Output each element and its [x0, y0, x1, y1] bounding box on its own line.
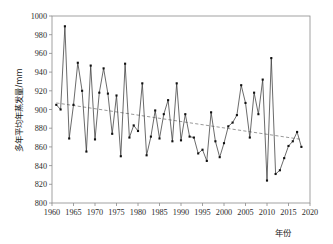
x-tick-label: 1960: [44, 208, 60, 217]
data-point-marker: [141, 82, 143, 84]
data-point-marker: [244, 102, 246, 104]
evaporation-series-markers: [55, 25, 302, 181]
x-tick-label: 1995: [194, 208, 210, 217]
data-point-marker: [189, 136, 191, 138]
evaporation-series-line: [56, 26, 301, 180]
data-point-marker: [111, 133, 113, 135]
data-point-marker: [64, 25, 66, 27]
x-axis-tick-marks: [52, 203, 310, 206]
data-point-marker: [296, 131, 298, 133]
data-point-marker: [253, 92, 255, 94]
data-point-marker: [214, 140, 216, 142]
y-tick-label: 820: [35, 180, 47, 189]
evaporation-trend-chart: 8008208408608809009209409609801000 19601…: [0, 0, 333, 244]
data-point-marker: [146, 154, 148, 156]
data-point-marker: [60, 108, 62, 110]
data-point-marker: [150, 136, 152, 138]
x-tick-label: 1985: [151, 208, 167, 217]
y-axis-tick-labels: 8008208408608809009209409609801000: [31, 12, 47, 208]
y-axis-tick-marks: [49, 16, 52, 203]
data-point-marker: [90, 65, 92, 67]
x-axis-title: 年份: [275, 228, 292, 238]
data-point-marker: [262, 79, 264, 81]
data-point-marker: [81, 90, 83, 92]
data-point-marker: [77, 62, 79, 64]
data-point-marker: [171, 140, 173, 142]
x-tick-label: 2010: [259, 208, 275, 217]
data-point-marker: [98, 92, 100, 94]
chart-canvas: 8008208408608809009209409609801000 19601…: [0, 0, 333, 244]
data-point-marker: [103, 67, 105, 69]
data-point-marker: [219, 156, 221, 158]
data-point-marker: [240, 84, 242, 86]
plot-frame: [52, 16, 310, 203]
data-point-marker: [257, 113, 259, 115]
y-tick-label: 860: [35, 143, 47, 152]
x-tick-label: 1975: [108, 208, 124, 217]
data-point-marker: [158, 137, 160, 139]
data-point-marker: [210, 111, 212, 113]
x-tick-label: 2005: [237, 208, 253, 217]
x-tick-label: 2020: [302, 208, 318, 217]
y-tick-label: 800: [35, 199, 47, 208]
data-point-marker: [266, 180, 268, 182]
data-point-marker: [128, 137, 130, 139]
data-point-marker: [249, 137, 251, 139]
x-tick-label: 1970: [87, 208, 103, 217]
data-point-marker: [137, 130, 139, 132]
y-tick-label: 960: [35, 49, 47, 58]
data-point-marker: [292, 140, 294, 142]
x-tick-label: 2000: [216, 208, 232, 217]
data-point-marker: [275, 173, 277, 175]
y-tick-label: 920: [35, 87, 47, 96]
data-point-marker: [193, 137, 195, 139]
data-point-marker: [201, 149, 203, 151]
data-point-marker: [300, 146, 302, 148]
data-point-marker: [184, 113, 186, 115]
data-point-marker: [236, 114, 238, 116]
y-axis-title: 多年平均年蒸发量/mm: [14, 68, 24, 151]
data-point-marker: [154, 109, 156, 111]
data-point-marker: [55, 104, 57, 106]
data-point-marker: [163, 113, 165, 115]
data-point-marker: [287, 145, 289, 147]
y-tick-label: 940: [35, 68, 47, 77]
y-tick-label: 980: [35, 31, 47, 40]
data-point-marker: [232, 122, 234, 124]
data-point-marker: [124, 63, 126, 65]
data-point-marker: [107, 93, 109, 95]
x-tick-label: 1980: [130, 208, 146, 217]
data-point-marker: [279, 169, 281, 171]
data-point-marker: [85, 151, 87, 153]
data-point-marker: [94, 138, 96, 140]
data-point-marker: [283, 157, 285, 159]
data-point-marker: [115, 94, 117, 96]
y-tick-label: 1000: [31, 12, 47, 21]
x-tick-label: 1990: [173, 208, 189, 217]
y-tick-label: 840: [35, 162, 47, 171]
x-tick-label: 2015: [280, 208, 296, 217]
data-point-marker: [180, 139, 182, 141]
data-point-marker: [133, 124, 135, 126]
data-point-marker: [223, 142, 225, 144]
data-point-marker: [72, 104, 74, 106]
data-point-marker: [227, 125, 229, 127]
data-point-marker: [206, 160, 208, 162]
y-tick-label: 900: [35, 106, 47, 115]
data-point-marker: [176, 82, 178, 84]
y-tick-label: 880: [35, 124, 47, 133]
data-point-marker: [120, 155, 122, 157]
data-point-marker: [270, 57, 272, 59]
data-point-marker: [68, 137, 70, 139]
x-tick-label: 1965: [65, 208, 81, 217]
data-point-marker: [167, 99, 169, 101]
x-axis-tick-labels: 1960196519701975198019851990199520002005…: [44, 208, 318, 217]
data-point-marker: [197, 152, 199, 154]
